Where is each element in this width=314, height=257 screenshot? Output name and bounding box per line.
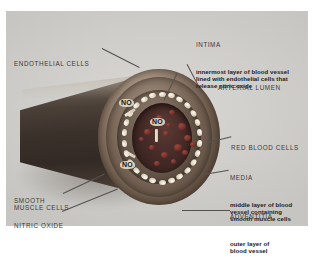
label-nitric-oxide-head: NITRIC OXIDE (14, 222, 64, 229)
red-blood-cell (190, 142, 196, 147)
red-blood-cell (174, 144, 182, 151)
no-badge: NO (150, 118, 165, 126)
red-blood-cell (169, 110, 175, 115)
label-nitric-oxide: NITRIC OXIDE (14, 203, 64, 248)
label-arterial-lumen-head: ARTERIAL LUMEN (218, 84, 281, 91)
red-blood-cell (171, 159, 176, 164)
label-adventitia: ADVENTITIA outer layer of blood vessel (230, 194, 273, 257)
red-blood-cell (166, 123, 171, 127)
label-intima-head: INTIMA (196, 41, 289, 48)
red-blood-cell (178, 123, 186, 130)
red-blood-cell (154, 161, 160, 166)
endothelial-cell (159, 180, 166, 185)
nitric-oxide-arrow (155, 129, 158, 142)
label-adventitia-desc: outer layer of blood vessel (230, 240, 273, 254)
label-endothelial-cells-head: ENDOTHELIAL CELLS (14, 60, 89, 67)
no-badge: NO (119, 99, 134, 107)
red-blood-cell (144, 129, 151, 135)
red-blood-cell (163, 131, 169, 136)
label-endothelial-cells: ENDOTHELIAL CELLS (14, 41, 89, 86)
endothelial-cell (121, 140, 127, 148)
label-arterial-lumen: ARTERIAL LUMEN (218, 65, 281, 110)
label-adventitia-head: ADVENTITIA (230, 213, 273, 220)
leader-line-endothelial-cells (102, 48, 140, 68)
label-media-head: MEDIA (230, 174, 292, 181)
red-blood-cell (184, 135, 191, 141)
label-red-blood-cells-head: RED BLOOD CELLS (231, 144, 299, 151)
red-blood-cell (149, 145, 155, 150)
red-blood-cell (161, 152, 168, 158)
no-badge: NO (120, 161, 135, 169)
leader-line-adventitia (182, 210, 230, 211)
red-blood-cell (182, 150, 188, 155)
red-blood-cell (139, 137, 144, 141)
